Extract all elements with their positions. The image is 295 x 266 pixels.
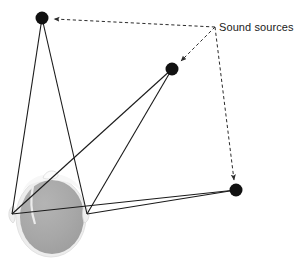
leader-to-middle-source (181, 27, 215, 61)
sound-source-lower-right[interactable] (230, 184, 243, 197)
figure-canvas: Sound sources (0, 0, 295, 266)
leader-to-lower-right-source (215, 27, 234, 180)
sound-source-group (36, 12, 243, 197)
head-fill (20, 180, 84, 254)
leader-to-upper-left-source (54, 19, 215, 27)
listener-head (9, 171, 89, 257)
sound-localization-diagram: Sound sources (0, 0, 295, 266)
ray-lower-right-to-right-ear (87, 190, 236, 214)
ray-middle-to-left-ear (12, 69, 172, 214)
sound-source-middle[interactable] (166, 63, 179, 76)
sound-source-upper-left[interactable] (36, 12, 49, 25)
leader-line-group (54, 19, 234, 180)
sound-sources-label: Sound sources (219, 21, 294, 33)
ray-middle-to-right-ear (87, 69, 172, 214)
